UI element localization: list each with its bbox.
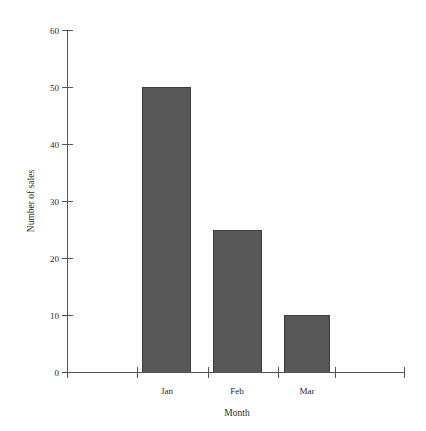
y-tick-label-30: 30 [50,197,60,207]
y-tick-label-40: 40 [50,140,60,150]
x-axis-title: Month [224,408,250,418]
x-tick-label-jan: Jan [161,386,173,396]
bar-jan [143,88,191,373]
bar-feb [214,230,262,373]
y-axis-title: Number of sales [26,170,36,233]
x-tick-label-mar: Mar [300,386,315,396]
y-tick-label-10: 10 [50,311,60,321]
y-tick-label-60: 60 [50,26,60,36]
y-tick-label-0: 0 [55,368,60,378]
bar-mar [285,316,330,373]
y-tick-label-50: 50 [50,83,60,93]
bar-chart-figure: 60 50 40 30 20 10 0 Number of sales [0,0,426,431]
chart-canvas: 60 50 40 30 20 10 0 Number of sales [0,0,426,431]
y-tick-label-20: 20 [50,254,60,264]
x-tick-label-feb: Feb [230,386,244,396]
